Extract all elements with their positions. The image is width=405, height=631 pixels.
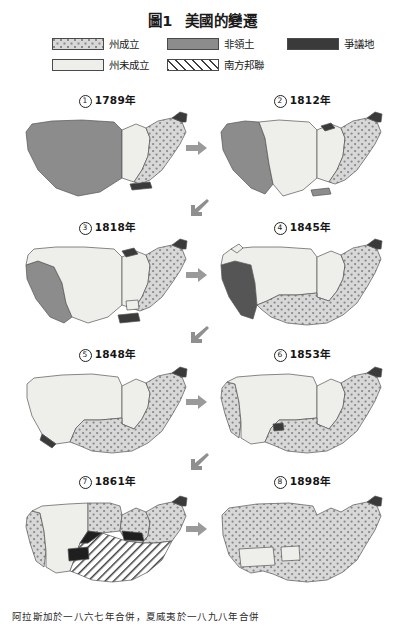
- map-canvas-8: [217, 485, 389, 593]
- map-panel-1: 11789年: [14, 88, 200, 215]
- map-row-3: 51848年: [0, 342, 405, 469]
- legend-item-state-established: 州成立: [52, 36, 167, 51]
- map-canvas-7: [22, 485, 194, 593]
- legend-swatch-dark-icon: [287, 38, 339, 50]
- map-canvas-5: [22, 358, 194, 466]
- legend-label-non-territory: 非領土: [224, 36, 254, 51]
- arrow-down-left-icon-2: [190, 324, 210, 344]
- arrow-right-icon-1: [186, 140, 208, 156]
- map-panel-4: 41845年: [209, 215, 395, 342]
- legend-swatch-dotted-icon: [52, 38, 104, 50]
- map-panel-3: 31818年: [14, 215, 200, 342]
- figure-title-text: 美國的變遷: [185, 13, 258, 29]
- map-canvas-4: [217, 231, 389, 339]
- legend: 州成立 非領土 爭議地 州未成立 南方邦聯: [0, 33, 405, 81]
- figure-number: 圖1: [148, 13, 173, 29]
- map-panel-2: 21812年: [209, 88, 395, 215]
- arrow-right-icon-3: [186, 394, 208, 410]
- legend-swatch-hatched-icon: [167, 59, 219, 71]
- map-canvas-6: [217, 358, 389, 466]
- legend-swatch-gray-icon: [167, 38, 219, 50]
- footnote: 阿拉斯加於一八六七年合併，夏威夷於一八九八年合併: [12, 609, 259, 623]
- legend-item-confederacy: 南方邦聯: [167, 57, 287, 72]
- legend-label-state-established: 州成立: [109, 36, 139, 51]
- page-title: 圖1美國的變遷: [0, 0, 405, 30]
- arrow-down-left-icon-3: [190, 451, 210, 471]
- legend-row-2: 州未成立 南方邦聯: [0, 54, 405, 75]
- map-panel-5: 51848年: [14, 342, 200, 469]
- legend-label-confederacy: 南方邦聯: [224, 57, 264, 72]
- legend-swatch-light-icon: [52, 59, 104, 71]
- map-panel-8: 81898年: [209, 469, 395, 596]
- legend-label-disputed: 爭議地: [344, 36, 374, 51]
- map-panel-7: 71861年: [14, 469, 200, 596]
- map-panel-6: 61853年: [209, 342, 395, 469]
- map-canvas-1: [22, 104, 194, 212]
- legend-item-non-territory: 非領土: [167, 36, 287, 51]
- figure-container: 圖1美國的變遷 州成立 非領土 爭議地 州未成立 南方: [0, 0, 405, 631]
- arrow-right-icon-4: [186, 521, 208, 537]
- legend-row-1: 州成立 非領土 爭議地: [0, 33, 405, 54]
- map-row-2: 31818年: [0, 215, 405, 342]
- map-grid: 11789年: [0, 88, 405, 596]
- map-canvas-2: [217, 104, 389, 212]
- map-canvas-3: [22, 231, 194, 339]
- map-row-4: 71861年: [0, 469, 405, 596]
- legend-item-disputed: 爭議地: [287, 36, 397, 51]
- arrow-right-icon-2: [186, 267, 208, 283]
- legend-label-state-not-established: 州未成立: [109, 57, 149, 72]
- map-row-1: 11789年: [0, 88, 405, 215]
- arrow-down-left-icon-1: [190, 197, 210, 217]
- legend-item-state-not-established: 州未成立: [52, 57, 167, 72]
